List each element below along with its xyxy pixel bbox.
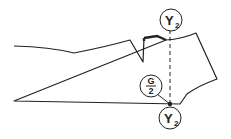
intersection-point xyxy=(168,102,172,106)
svg-text:G: G xyxy=(147,76,154,86)
marker-g-half: G 2 xyxy=(140,75,162,97)
svg-text:2: 2 xyxy=(148,86,153,96)
svg-text:2: 2 xyxy=(174,119,179,128)
marker-y2-top: Y 2 xyxy=(160,9,182,31)
leader-line xyxy=(157,94,170,104)
pattern-diagram: Y 2 G 2 Y 2 xyxy=(0,0,231,139)
svg-text:Y: Y xyxy=(165,13,174,28)
pattern-outline xyxy=(14,33,217,104)
waist-segment xyxy=(144,36,166,41)
svg-text:Y: Y xyxy=(164,111,173,126)
svg-text:2: 2 xyxy=(175,21,180,30)
marker-y2-bottom: Y 2 xyxy=(159,107,181,129)
